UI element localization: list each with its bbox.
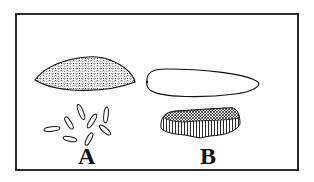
- panel-b-label: B: [200, 144, 216, 168]
- panel-a-label: A: [78, 144, 95, 168]
- panel-a-grains: [44, 104, 112, 147]
- panel-a-stippled-body: [35, 57, 135, 90]
- panel-b-ribbed-cluster: [161, 108, 240, 138]
- figure-artwork: [0, 0, 314, 182]
- panel-b-outline-body: [146, 69, 259, 97]
